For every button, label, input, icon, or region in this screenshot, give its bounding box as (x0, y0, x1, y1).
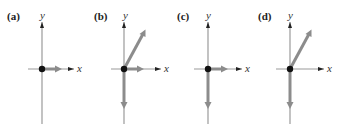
panel-d: (d) y x (252, 0, 336, 132)
panel-a: (a) y x (0, 0, 84, 132)
axes-diagram-a (0, 0, 90, 132)
axes-diagram-b (84, 0, 179, 132)
axes-diagram-d (252, 0, 338, 132)
panel-b: (b) y x (84, 0, 168, 132)
axes-diagram-c (168, 0, 258, 132)
panel-c: (c) y x (168, 0, 252, 132)
